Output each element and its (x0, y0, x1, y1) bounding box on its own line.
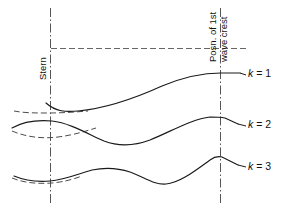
series-label-k1-value: 1 (265, 67, 271, 79)
hull-outline-k3 (12, 176, 82, 183)
wave-profile-curve-k3 (14, 157, 238, 184)
series-group-k1: k = 1 (14, 67, 271, 113)
series-label-k3-value: 3 (265, 160, 271, 172)
series-label-k1-equals: = (253, 67, 265, 79)
first-wave-crest-annotation-line1: Posn. of 1st (207, 11, 218, 62)
hull-outline-k2 (12, 128, 96, 138)
wave-profile-figure: k = 1 k = 2 k = 3 Stern Posn. of 1st wav… (0, 0, 290, 211)
stern-annotation-label: Stern (37, 57, 48, 80)
series-label-k3-equals: = (253, 160, 265, 172)
series-label-k1: k = 1 (248, 67, 271, 79)
series-label-k2: k = 2 (248, 118, 271, 130)
wave-profile-curve-k1 (46, 73, 240, 111)
first-wave-crest-annotation-line2: wave crest (218, 16, 229, 63)
diagram-canvas: k = 1 k = 2 k = 3 Stern Posn. of 1st wav… (0, 0, 290, 211)
series-label-k2-equals: = (253, 118, 265, 130)
series-label-k3: k = 3 (248, 160, 271, 172)
leader-line-k2 (238, 124, 246, 126)
series-label-k2-value: 2 (265, 118, 271, 130)
leader-line-k3 (238, 165, 246, 167)
leader-line-k1 (240, 73, 246, 75)
wave-profile-curve-k2 (12, 117, 238, 145)
